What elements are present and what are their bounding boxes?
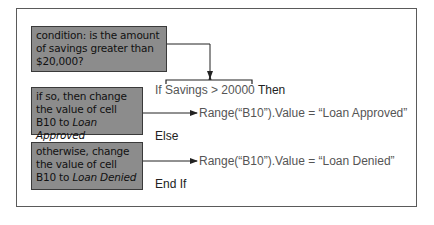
code-denied-line: Range(“B10”).Value = “Loan Denied” — [199, 154, 395, 168]
code-endif-line: End If — [155, 177, 186, 191]
code-else-line: Else — [155, 129, 178, 143]
code-if-line: If Savings > 20000 Then — [155, 83, 285, 97]
condition-note-text: condition: is the amount of savings grea… — [36, 29, 159, 67]
if-condition: If Savings > 20000 — [155, 83, 255, 97]
otherwise-note-value: Loan Denied — [72, 171, 136, 183]
if-so-note: if so, then change the value of cell B10… — [31, 87, 143, 135]
condition-note: condition: is the amount of savings grea… — [31, 26, 167, 72]
otherwise-note: otherwise, change the value of cell B10 … — [31, 142, 143, 190]
then-keyword: Then — [258, 83, 285, 97]
code-approved-line: Range(“B10”).Value = “Loan Approved” — [199, 106, 407, 120]
condition-arrow — [166, 44, 210, 78]
